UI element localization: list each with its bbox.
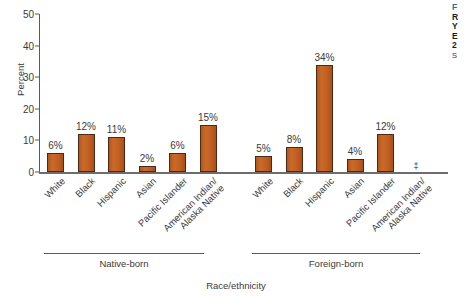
bar-value-label: 11% bbox=[107, 124, 126, 135]
group-rule-foreign-born bbox=[252, 253, 420, 254]
bar bbox=[347, 159, 364, 172]
category-label-line: Asian bbox=[342, 176, 366, 200]
bar-slot: 4% bbox=[347, 14, 364, 172]
bar-slot: 6% bbox=[47, 14, 64, 172]
bar-value-label: 8% bbox=[287, 134, 301, 145]
bar-value-label: 5% bbox=[256, 143, 270, 154]
bar bbox=[200, 125, 217, 172]
bar-value-label: 15% bbox=[198, 112, 218, 123]
side-caption-line-6: S bbox=[452, 51, 472, 61]
bar-value-label: 2% bbox=[140, 153, 154, 164]
category-label: White bbox=[42, 176, 66, 200]
bar bbox=[286, 147, 303, 172]
side-caption-line-5: 2 bbox=[452, 41, 472, 51]
bar-value-label: 34% bbox=[314, 52, 334, 63]
category-label-line: White bbox=[250, 176, 274, 200]
bar-value-label: 6% bbox=[170, 140, 184, 151]
category-label-line: Hispanic bbox=[95, 176, 128, 209]
bar-value-label: 6% bbox=[48, 140, 62, 151]
y-tick-label-10: 10 bbox=[12, 135, 34, 146]
bar bbox=[169, 153, 186, 172]
bar-slot: 15% bbox=[200, 14, 217, 172]
bar-slot: 12% bbox=[78, 14, 95, 172]
bar-slot: 6% bbox=[169, 14, 186, 172]
category-label-line: Hispanic bbox=[303, 176, 336, 209]
bar-slot: 34% bbox=[316, 14, 333, 172]
group-label-foreign-born: Foreign-born bbox=[309, 258, 363, 269]
bar-value-label: 4% bbox=[348, 146, 362, 157]
bar-value-label: 12% bbox=[76, 121, 96, 132]
bar-slot: 8% bbox=[286, 14, 303, 172]
bar bbox=[255, 156, 272, 172]
bar bbox=[78, 134, 95, 172]
group-rule-native-born bbox=[44, 253, 204, 254]
y-tick-label-50: 50 bbox=[12, 9, 34, 20]
category-label: Hispanic bbox=[303, 176, 336, 209]
y-tick-label-0: 0 bbox=[12, 167, 34, 178]
category-label-line: Asian bbox=[134, 176, 158, 200]
bar-slot: ‡ bbox=[408, 14, 425, 172]
bar bbox=[316, 65, 333, 172]
category-label: Asian bbox=[134, 176, 158, 200]
category-label-line: Black bbox=[282, 176, 306, 200]
category-label: Asian bbox=[342, 176, 366, 200]
bar-slot: 5% bbox=[255, 14, 272, 172]
category-label: Hispanic bbox=[95, 176, 128, 209]
plot-area: 6%12%11%2%6%15%5%8%34%4%12%‡ bbox=[39, 14, 448, 172]
bar-slot: 11% bbox=[108, 14, 125, 172]
category-label-line: White bbox=[42, 176, 66, 200]
bar bbox=[139, 166, 156, 172]
category-label: Black bbox=[282, 176, 306, 200]
bar bbox=[47, 153, 64, 172]
x-axis-title: Race/ethnicity bbox=[206, 280, 266, 291]
bar-slot: 2% bbox=[139, 14, 156, 172]
bar bbox=[377, 134, 394, 172]
category-label-line: Black bbox=[74, 176, 98, 200]
y-tick-label-20: 20 bbox=[12, 103, 34, 114]
bar-slot: 12% bbox=[377, 14, 394, 172]
side-caption: F R Y E 2 S bbox=[452, 3, 472, 61]
x-axis-line bbox=[39, 172, 448, 174]
footnote-marker: ‡ bbox=[413, 161, 418, 171]
y-tick-label-30: 30 bbox=[12, 72, 34, 83]
category-label: Black bbox=[74, 176, 98, 200]
category-label: White bbox=[250, 176, 274, 200]
group-label-native-born: Native-born bbox=[99, 258, 148, 269]
bar bbox=[108, 137, 125, 172]
chart-container: Percent 01020304050 6%12%11%2%6%15%5%8%3… bbox=[0, 0, 472, 297]
y-tick-label-40: 40 bbox=[12, 40, 34, 51]
bar-value-label: 12% bbox=[375, 121, 395, 132]
